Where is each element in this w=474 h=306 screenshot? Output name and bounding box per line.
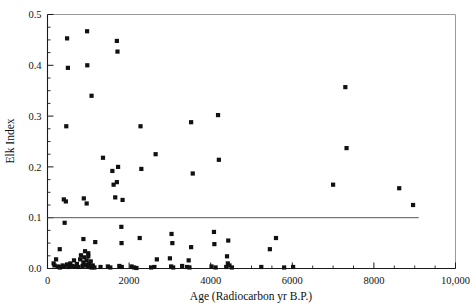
y-tick-label: 0.4 [28,60,42,71]
data-point [85,201,89,205]
elk-index-scatter-figure: 0200040006000800010,000 0.00.10.20.30.40… [0,0,474,306]
data-point [108,265,112,269]
axis-ticks [48,15,456,269]
x-tick-label: 6000 [282,275,303,286]
data-point [138,124,142,128]
data-point [187,258,191,262]
y-tick-label: 0.0 [28,263,41,274]
data-point [214,265,218,269]
x-tick-label: 2000 [119,275,140,286]
data-point [152,265,156,269]
data-point [225,254,229,258]
data-point [170,241,174,245]
y-tick-label: 0.5 [28,9,41,20]
data-point [119,241,123,245]
data-point [85,29,89,33]
plot-axis-left-bottom [48,15,456,269]
plot-frame [48,15,456,269]
data-point [116,165,120,169]
data-point [291,265,295,269]
data-point [344,146,348,150]
data-point [93,240,97,244]
data-point [101,156,105,160]
x-axis-tick-labels: 0200040006000800010,000 [45,275,470,286]
data-point [171,265,175,269]
data-point [216,113,220,117]
scatter-plot-svg: 0200040006000800010,000 0.00.10.20.30.40… [0,0,474,306]
data-point [85,63,89,67]
data-point [112,183,116,187]
data-point [411,203,415,207]
data-point [191,171,195,175]
data-point [268,247,272,251]
data-point [343,85,347,89]
data-point [64,124,68,128]
data-point [120,265,124,269]
data-point [274,236,278,240]
data-point [397,186,401,190]
data-point [155,257,159,261]
y-tick-label: 0.2 [28,162,41,173]
data-point [189,120,193,124]
data-point [331,183,335,187]
y-tick-label: 0.3 [28,111,41,122]
data-point [212,230,216,234]
data-point [115,49,119,53]
data-point [92,265,96,269]
data-point [83,249,87,253]
data-point [119,225,123,229]
data-point [115,39,119,43]
data-point [113,195,117,199]
data-point [259,265,263,269]
x-axis-title: Age (Radiocarbon yr B.P.) [190,290,312,303]
data-point [120,198,124,202]
x-tick-label: 0 [45,275,50,286]
data-point [66,66,70,70]
data-point [189,245,193,249]
data-point [89,259,93,263]
x-tick-label: 10,000 [441,275,470,286]
x-tick-label: 8000 [363,275,384,286]
data-point [65,36,69,40]
data-point [217,158,221,162]
data-point [86,254,90,258]
x-tick-label: 4000 [200,275,221,286]
data-point [82,196,86,200]
data-point [282,265,286,269]
data-point [169,232,173,236]
data-point [139,167,143,171]
data-point [154,152,158,156]
data-point [98,265,102,269]
data-point [89,94,93,98]
y-tick-label: 0.1 [28,212,41,223]
data-point [134,266,138,270]
data-point [63,221,67,225]
data-point [110,169,114,173]
data-point [64,199,68,203]
data-point [187,265,191,269]
data-point [230,265,234,269]
data-point [168,256,172,260]
y-axis-title: Elk Index [4,118,16,163]
y-axis-tick-labels: 0.00.10.20.30.40.5 [28,9,42,274]
data-points-group [52,29,416,270]
data-point [76,265,80,269]
plot-border-top-right [48,15,456,269]
data-point [138,236,142,240]
data-point [226,238,230,242]
data-point [58,247,62,251]
data-point [54,257,58,261]
data-point [209,264,213,268]
data-point [81,237,85,241]
data-point [180,264,184,268]
data-point [212,242,216,246]
